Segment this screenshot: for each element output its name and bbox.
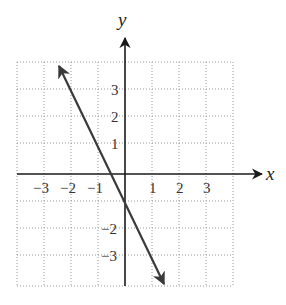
y-tick-label: −2 [101,221,117,237]
x-tick-label: −2 [60,180,76,196]
x-tick-label: −1 [87,180,103,196]
x-tick-label: 2 [176,180,184,196]
coordinate-plane: x y −3 −2 −1 1 2 3 3 2 1 −2 −3 [0,0,286,305]
x-tick-label: 1 [149,180,157,196]
x-axis-label: x [265,163,275,184]
y-axis-label: y [116,9,127,30]
x-tick-label: −3 [33,180,49,196]
y-tick-label: −3 [101,248,117,264]
y-tick-label: 3 [111,82,119,98]
y-tick-label: 2 [111,109,119,125]
y-tick-label: 1 [111,136,119,152]
x-tick-label: 3 [203,180,211,196]
